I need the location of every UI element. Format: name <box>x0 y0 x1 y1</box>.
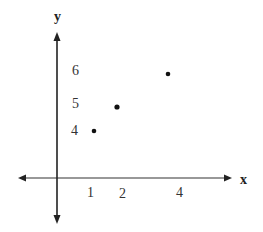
data-point <box>114 104 119 109</box>
data-point <box>166 72 171 77</box>
x-axis-right-arrow-icon <box>224 175 232 182</box>
x-axis-left-arrow-icon <box>18 175 26 182</box>
y-axis-up-arrow-icon <box>54 32 61 41</box>
y-axis-down-arrow-icon <box>54 215 61 224</box>
x-tick-4: 4 <box>176 186 183 200</box>
x-tick-1: 1 <box>87 186 94 200</box>
y-tick-5: 5 <box>72 97 79 111</box>
y-tick-6: 6 <box>72 64 79 78</box>
chart-canvas <box>0 0 263 232</box>
x-tick-2: 2 <box>119 187 126 201</box>
y-tick-4: 4 <box>71 124 78 138</box>
x-axis-label: x <box>240 173 247 187</box>
y-axis-label: y <box>54 10 61 24</box>
data-point <box>92 129 97 134</box>
